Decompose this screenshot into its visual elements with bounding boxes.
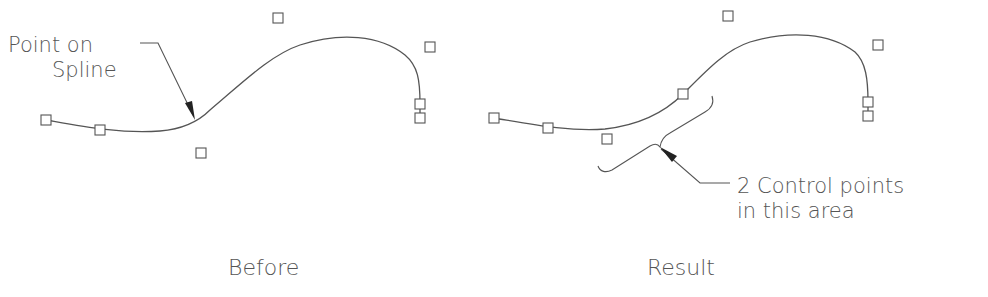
control-point-marker (415, 113, 425, 123)
control-point-marker (602, 134, 612, 144)
result-caption: Result (647, 255, 715, 280)
result-spline-curve (494, 35, 868, 130)
callout-in-this-area: in this area (737, 199, 855, 223)
spline-diagram: Point on Spline Before 2 Control points … (0, 0, 988, 297)
callout-control-points: 2 Control points (737, 174, 904, 198)
control-point-marker (41, 115, 51, 125)
control-point-marker (489, 113, 499, 123)
control-point-marker (723, 11, 733, 21)
control-point-marker (95, 125, 105, 135)
callout-point-on: Point on (8, 33, 93, 57)
result-control-points (489, 11, 883, 144)
before-spline-curve (46, 37, 420, 132)
before-panel: Point on Spline Before (8, 13, 435, 280)
control-point-marker (415, 99, 425, 109)
control-point-marker (863, 97, 873, 107)
arrowhead-icon (185, 101, 195, 120)
control-point-marker (873, 40, 883, 50)
before-caption: Before (228, 255, 299, 280)
callout-spline: Spline (52, 58, 117, 82)
area-bracket (598, 96, 713, 172)
control-point-marker (425, 42, 435, 52)
control-point-marker (678, 89, 688, 99)
control-point-marker (863, 111, 873, 121)
control-point-marker (543, 123, 553, 133)
arrowhead-icon (660, 147, 677, 162)
result-panel: 2 Control points in this area Result (489, 11, 904, 280)
point-on-spline-leader (140, 43, 193, 115)
control-point-marker (273, 13, 283, 23)
control-point-marker (196, 148, 206, 158)
